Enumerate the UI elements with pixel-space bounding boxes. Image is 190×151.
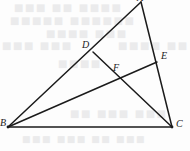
point-label-e: E xyxy=(161,51,167,61)
point-label-f: F xyxy=(113,63,119,73)
point-label-b: B xyxy=(0,118,6,128)
side-AB xyxy=(8,2,141,127)
triangle-diagram-svg xyxy=(0,0,190,151)
point-label-c: C xyxy=(176,119,183,129)
point-label-a: A xyxy=(137,0,143,3)
geometry-figure: ■■■ ■■ ■■■■■■■■■ ■■■■■■■■■■ ■■■■■■ ■■■■■… xyxy=(0,0,190,151)
vertex-dot-c xyxy=(171,126,174,129)
vertex-dot-b xyxy=(7,126,10,129)
segments-group xyxy=(8,2,172,127)
cevian-DC xyxy=(93,52,172,127)
point-label-d: D xyxy=(82,40,89,50)
cevian-BE xyxy=(8,62,157,127)
side-AC xyxy=(141,2,172,127)
